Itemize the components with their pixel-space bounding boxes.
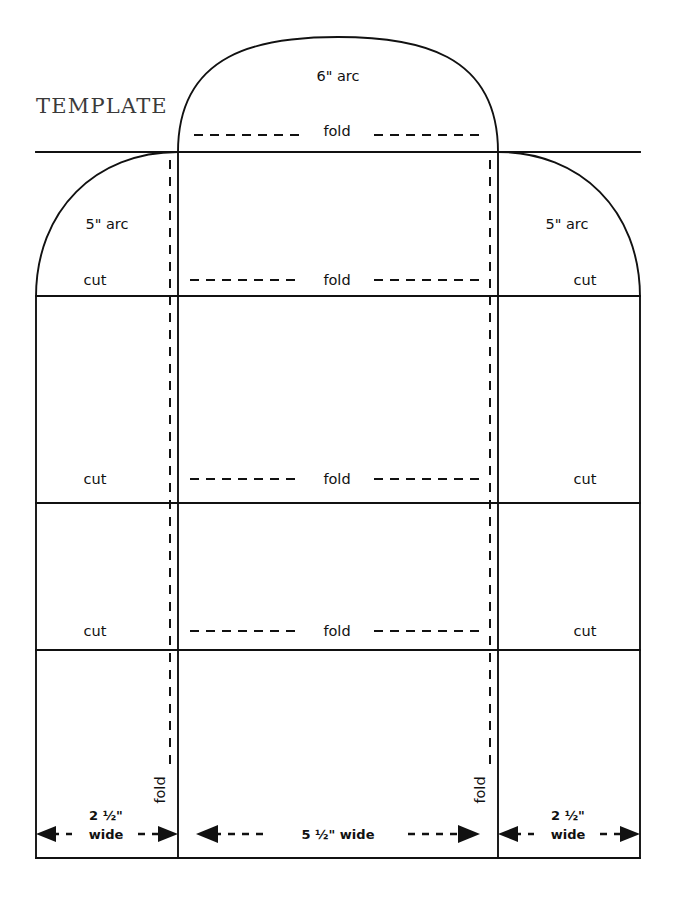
cut-label-left-row3: cut	[84, 623, 107, 639]
dimension-right-panel: 2 ½" wide	[498, 808, 640, 842]
dimension-right-arrow-left-icon	[498, 826, 518, 842]
dimension-center-arrow-right-icon	[458, 825, 480, 843]
left-arc-label: 5" arc	[85, 216, 128, 232]
page-title: TEMPLATE	[36, 94, 168, 118]
fold-label-top: fold	[323, 123, 350, 139]
fold-label-row3: fold	[323, 623, 350, 639]
sewing-template-diagram: TEMPLATE	[0, 0, 676, 897]
dimension-center-arrow-left-icon	[196, 825, 218, 843]
dimension-right-arrow-right-icon	[620, 826, 640, 842]
top-arc-label: 6" arc	[316, 68, 359, 84]
cut-label-right-row3: cut	[574, 623, 597, 639]
cut-label-left-row1: cut	[84, 272, 107, 288]
dimension-center-panel: 5 ½" wide	[196, 825, 480, 843]
dimension-center-value: 5 ½" wide	[302, 827, 375, 842]
template-diagram-page: TEMPLATE	[0, 0, 676, 897]
cut-label-right-row2: cut	[574, 471, 597, 487]
dimension-left-value: 2 ½"	[89, 808, 123, 823]
cut-label-left-row2: cut	[84, 471, 107, 487]
dimension-left-panel: 2 ½" wide	[36, 808, 178, 842]
dimension-right-unit: wide	[551, 827, 586, 842]
dimension-left-arrow-right-icon	[158, 826, 178, 842]
fold-label-vertical-right: fold	[472, 776, 488, 803]
fold-label-row2: fold	[323, 471, 350, 487]
fold-label-vertical-left: fold	[152, 776, 168, 803]
cut-label-right-row1: cut	[574, 272, 597, 288]
dimension-left-arrow-left-icon	[36, 826, 56, 842]
dimension-right-value: 2 ½"	[551, 808, 585, 823]
right-arc-label: 5" arc	[545, 216, 588, 232]
dimension-left-unit: wide	[89, 827, 124, 842]
fold-label-row1: fold	[323, 272, 350, 288]
